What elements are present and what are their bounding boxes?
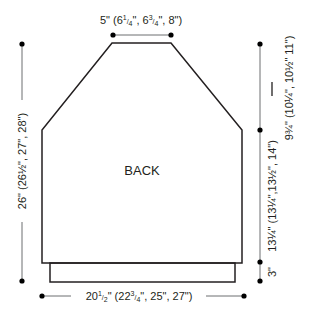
armhole-dot-top [257, 41, 262, 46]
neck-width-label: 5" (61/4", 63/4", 8") [100, 14, 182, 27]
width-dot-right [241, 293, 246, 298]
total-length-dot-top [19, 41, 24, 46]
neck-width-dot-right [168, 32, 173, 37]
total-length-dot-bottom [19, 278, 24, 283]
body-dot-bottom [257, 259, 262, 264]
ribbing-outline [50, 263, 235, 282]
ribbing-height-label: 3" [266, 267, 278, 277]
width-dot-left [39, 293, 44, 298]
back-body-outline [42, 43, 242, 263]
schematic-diagram: BACK 5" (61/4", 63/4", 8") 26" (26½", 27… [0, 0, 313, 318]
width-label: 201/2" (223/4", 25", 27") [86, 290, 193, 303]
body-length-label: 13¼" (13¼",13½", 14") [266, 140, 278, 252]
neck-width-dot-left [110, 32, 115, 37]
piece-title: BACK [124, 163, 160, 178]
ribbing-dot-bottom [257, 278, 262, 283]
armhole-depth-label: 9¾" (10¼", 10½" 11") [283, 36, 295, 141]
armhole-dot-bottom [257, 127, 262, 132]
total-length-label: 26" (26½", 27", 28") [16, 113, 28, 209]
